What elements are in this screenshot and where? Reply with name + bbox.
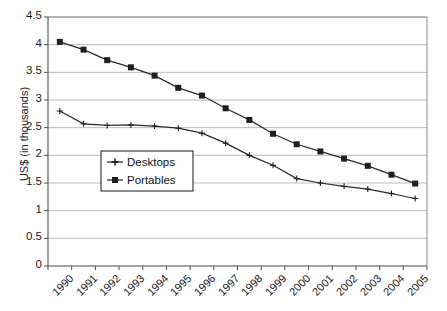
square-marker-icon <box>112 177 118 183</box>
data-point-marker <box>152 73 158 79</box>
data-point-marker <box>223 140 229 146</box>
data-point-marker <box>365 163 371 169</box>
data-point-marker <box>294 141 300 147</box>
data-point-marker <box>175 125 181 131</box>
data-point-marker <box>412 195 418 201</box>
data-point-marker <box>175 85 181 91</box>
data-point-marker <box>388 172 394 178</box>
data-point-marker <box>57 39 63 45</box>
data-point-marker <box>270 131 276 137</box>
data-point-marker <box>270 162 276 168</box>
axis-tick-marks <box>44 17 427 270</box>
data-point-marker <box>104 57 110 63</box>
data-point-marker <box>246 152 252 158</box>
data-point-marker <box>388 191 394 197</box>
plot-area: DesktopsPortables <box>0 0 447 311</box>
data-point-marker <box>365 186 371 192</box>
data-point-marker <box>341 156 347 162</box>
data-point-marker <box>81 47 87 53</box>
data-point-marker <box>81 121 87 127</box>
data-point-marker <box>57 108 63 114</box>
legend-label: Portables <box>127 174 176 186</box>
data-point-marker <box>317 148 323 154</box>
data-point-marker <box>152 123 158 129</box>
data-point-marker <box>128 122 134 128</box>
gridlines <box>48 17 427 238</box>
data-point-marker <box>223 105 229 111</box>
legend[interactable]: DesktopsPortables <box>101 151 193 191</box>
plot-frame <box>48 17 427 266</box>
data-point-marker <box>317 180 323 186</box>
data-point-marker <box>246 117 252 123</box>
data-point-marker <box>199 93 205 99</box>
legend-label: Desktops <box>127 156 175 168</box>
data-point-marker <box>199 130 205 136</box>
data-point-marker <box>412 181 418 187</box>
data-point-marker <box>341 183 347 189</box>
data-point-marker <box>128 64 134 70</box>
line-chart: US$ (in thousands) 00.511.522.533.544.5 … <box>0 0 447 311</box>
data-point-marker <box>294 176 300 182</box>
